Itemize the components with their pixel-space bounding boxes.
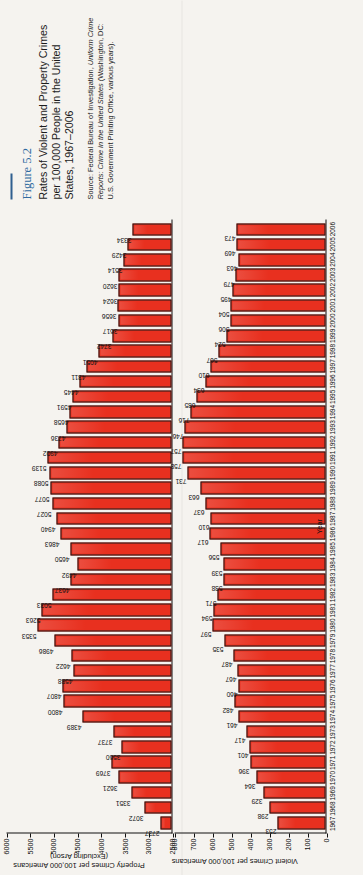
bar-item[interactable]: 746 [174, 419, 325, 434]
bar-item[interactable]: 401 [174, 739, 325, 754]
bar-item[interactable]: 364 [174, 769, 325, 784]
bar[interactable]: 461 [238, 710, 325, 722]
bar[interactable]: 5139 [47, 451, 171, 463]
bar-item[interactable]: 4807 [6, 678, 171, 693]
bar-item[interactable]: 506 [174, 313, 325, 328]
bar[interactable]: 617 [209, 527, 325, 539]
bar[interactable]: 4940 [56, 512, 171, 524]
bar[interactable]: 716 [190, 405, 325, 417]
bar-item[interactable]: 5139 [6, 450, 171, 465]
bar[interactable]: 482 [234, 694, 325, 706]
bar-item[interactable]: 487 [174, 647, 325, 662]
bar-item[interactable]: 4637 [6, 571, 171, 586]
bar[interactable]: 4800 [63, 694, 171, 706]
bar-item[interactable]: 495 [174, 282, 325, 297]
bar-item[interactable]: 617 [174, 526, 325, 541]
bar[interactable]: 5263 [41, 603, 171, 615]
bar-item[interactable]: 4650 [6, 541, 171, 556]
bar-item[interactable]: 4736 [6, 419, 171, 434]
bar[interactable]: 663 [200, 481, 325, 493]
bar[interactable]: 539 [223, 557, 325, 569]
bar-item[interactable]: 3656 [6, 297, 171, 312]
bar[interactable]: 3334 [132, 223, 171, 235]
bar[interactable]: 473 [236, 223, 325, 235]
bar[interactable]: 535 [224, 634, 325, 646]
bar[interactable]: 597 [212, 618, 325, 630]
bar[interactable]: 4588 [73, 664, 171, 676]
bar-item[interactable]: 757 [174, 434, 325, 449]
bar[interactable]: 3617 [118, 314, 171, 326]
bar-item[interactable]: 567 [174, 343, 325, 358]
bar-item[interactable]: 4658 [6, 404, 171, 419]
bar[interactable]: 4863 [60, 527, 171, 539]
bar-item[interactable]: 597 [174, 617, 325, 632]
bar[interactable]: 4622 [71, 649, 171, 661]
bar[interactable]: 4986 [54, 634, 171, 646]
bar-item[interactable]: 535 [174, 632, 325, 647]
bar[interactable]: 469 [236, 238, 325, 250]
bar-item[interactable]: 2737 [6, 815, 171, 830]
bar[interactable]: 5088 [49, 466, 171, 478]
bar-item[interactable]: 469 [174, 236, 325, 251]
bar[interactable]: 4591 [72, 390, 171, 402]
bar-item[interactable]: 482 [174, 693, 325, 708]
bar-item[interactable]: 3617 [6, 313, 171, 328]
bar-item[interactable]: 3429 [6, 236, 171, 251]
bar-item[interactable]: 467 [174, 663, 325, 678]
bar[interactable]: 4311 [86, 360, 171, 372]
bar[interactable]: 3514 [123, 253, 171, 265]
bar[interactable]: 3072 [144, 801, 171, 813]
bar[interactable]: 757 [182, 436, 325, 448]
bar-item[interactable]: 4051 [6, 343, 171, 358]
bar[interactable]: 571 [217, 588, 325, 600]
bar-item[interactable]: 253 [174, 815, 325, 830]
bar-item[interactable]: 4863 [6, 526, 171, 541]
bar-item[interactable]: 594 [174, 602, 325, 617]
bar-item[interactable]: 663 [174, 480, 325, 495]
bar[interactable]: 467 [237, 664, 325, 676]
bar[interactable]: 610 [210, 360, 325, 372]
bar-item[interactable]: 3621 [6, 769, 171, 784]
bar[interactable]: 463 [238, 253, 325, 265]
bar[interactable]: 567 [218, 344, 325, 356]
bar[interactable]: 3624 [118, 284, 171, 296]
bar[interactable]: 3429 [127, 238, 171, 250]
bar[interactable]: 538 [223, 573, 325, 585]
bar-item[interactable]: 758 [174, 450, 325, 465]
bar[interactable]: 4736 [66, 420, 171, 432]
bar-item[interactable]: 417 [174, 723, 325, 738]
bar[interactable]: 4658 [69, 405, 171, 417]
bar-item[interactable]: 3560 [6, 739, 171, 754]
bar[interactable]: 4637 [70, 573, 171, 585]
bar[interactable]: 5077 [50, 481, 171, 493]
bar-item[interactable]: 473 [174, 221, 325, 236]
bar[interactable]: 524 [226, 329, 325, 341]
bar[interactable]: 758 [182, 451, 325, 463]
bar[interactable]: 3656 [117, 299, 171, 311]
bar[interactable]: 2737 [160, 816, 171, 828]
bar-item[interactable]: 396 [174, 754, 325, 769]
bar-item[interactable]: 634 [174, 373, 325, 388]
bar[interactable]: 495 [232, 284, 325, 296]
bar[interactable]: 487 [233, 649, 325, 661]
bar-item[interactable]: 3334 [6, 221, 171, 236]
bar-item[interactable]: 3072 [6, 800, 171, 815]
bar[interactable]: 637 [205, 497, 325, 509]
bar[interactable]: 4650 [70, 542, 171, 554]
bar-item[interactable]: 5263 [6, 602, 171, 617]
bar-item[interactable]: 3351 [6, 784, 171, 799]
bar-item[interactable]: 5033 [6, 587, 171, 602]
bar[interactable]: 3560 [121, 740, 171, 752]
bar[interactable]: 594 [213, 603, 325, 615]
bar-item[interactable]: 3514 [6, 252, 171, 267]
bar-item[interactable]: 4445 [6, 373, 171, 388]
bar-item[interactable]: 3769 [6, 754, 171, 769]
bar-item[interactable]: 539 [174, 556, 325, 571]
bar-item[interactable]: 3742 [6, 328, 171, 343]
bar-item[interactable]: 460 [174, 678, 325, 693]
bar[interactable]: 556 [220, 542, 325, 554]
bar[interactable]: 610 [210, 512, 325, 524]
bar-item[interactable]: 716 [174, 404, 325, 419]
bar[interactable]: 460 [238, 679, 325, 691]
bar[interactable]: 506 [230, 314, 326, 326]
